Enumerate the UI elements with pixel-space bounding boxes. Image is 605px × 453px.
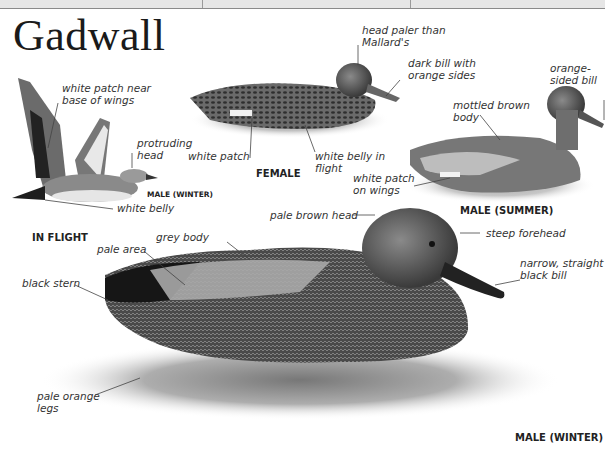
label-narrow-black-bill: narrow, straight black bill bbox=[520, 257, 603, 281]
label-female-white-patch: white patch bbox=[188, 150, 250, 162]
label-dark-bill: dark bill with orange sides bbox=[408, 57, 476, 81]
label-orange-sided-bill: orange- sided bill bbox=[550, 62, 597, 86]
label-black-stern: black stern bbox=[22, 277, 80, 289]
label-mottled-brown-body: mottled brown body bbox=[453, 99, 530, 123]
label-steep-forehead: steep forehead bbox=[486, 227, 566, 239]
label-white-patch-on-wings: white patch on wings bbox=[353, 172, 415, 196]
label-pale-orange-legs: pale orange legs bbox=[37, 390, 100, 414]
caption-male-winter: MALE (WINTER) bbox=[515, 432, 603, 443]
male-winter-duck bbox=[40, 208, 560, 420]
label-grey-body: grey body bbox=[156, 231, 209, 243]
caption-male-summer: MALE (SUMMER) bbox=[460, 205, 553, 216]
label-protruding-head: protruding head bbox=[137, 137, 192, 161]
label-pale-brown-head: pale brown head bbox=[270, 209, 358, 221]
female-duck bbox=[190, 63, 400, 138]
caption-in-flight: IN FLIGHT bbox=[32, 232, 88, 243]
label-white-belly-flight: white belly in flight bbox=[315, 150, 385, 174]
label-head-paler: head paler than Mallard's bbox=[362, 24, 446, 48]
caption-female: FEMALE bbox=[256, 168, 301, 179]
caption-flight-male-winter: MALE (WINTER) bbox=[147, 190, 213, 199]
label-white-patch-wings: white patch near base of wings bbox=[62, 82, 151, 106]
label-white-belly: white belly bbox=[117, 202, 174, 214]
label-pale-area: pale area bbox=[97, 243, 146, 255]
